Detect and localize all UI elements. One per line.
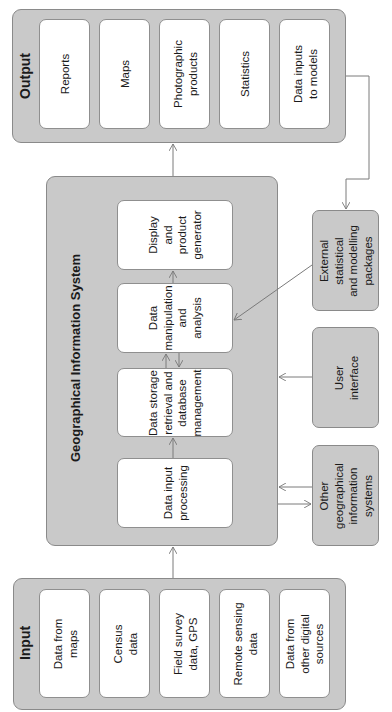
input-remote-sensing-label: Remote sensing data (230, 602, 259, 685)
user-interface-box: User interface (312, 327, 379, 428)
output-statistics-box: Statistics (219, 19, 270, 129)
gis-input-processing-box: Data input processing (117, 458, 233, 528)
user-interface-label: User interface (331, 355, 360, 399)
input-census-label: Census data (110, 624, 139, 663)
output-maps-box: Maps (99, 19, 150, 129)
output-reports-label: Reports (57, 54, 72, 94)
gis-title: Geographical Information System (68, 254, 83, 462)
input-census-box: Census data (99, 589, 150, 698)
gis-storage-label: Data storage retrieval and database mana… (146, 369, 204, 436)
gis-display-label: Display and product generator (146, 210, 204, 259)
output-data-inputs-box: Data inputs to models (279, 19, 330, 129)
output-maps-label: Maps (117, 60, 132, 88)
output-data-inputs-label: Data inputs to models (290, 45, 319, 103)
external-packages-label: External statistical and modelling packa… (317, 225, 375, 297)
output-photographic-label: Photographic products (170, 40, 199, 108)
input-field-survey-label: Field survey data, GPS (170, 613, 199, 675)
other-gis-label: Other geographical information systems (317, 463, 375, 529)
input-remote-sensing-box: Remote sensing data (219, 589, 270, 698)
output-title: Output (17, 53, 33, 99)
gis-display-box: Display and product generator (117, 200, 233, 270)
output-statistics-label: Statistics (237, 51, 252, 97)
gis-storage-box: Data storage retrieval and database mana… (117, 368, 233, 437)
input-title: Input (17, 626, 33, 660)
other-gis-box: Other geographical information systems (312, 445, 379, 546)
gis-manipulation-box: Data manipulation and analysis (117, 283, 233, 353)
gis-input-processing-label: Data input processing (161, 465, 190, 521)
input-field-survey-box: Field survey data, GPS (159, 589, 210, 698)
input-other-digital-box: Data from other digital sources (279, 589, 330, 698)
input-maps-box: Data from maps (39, 589, 90, 698)
input-other-digital-label: Data from other digital sources (283, 614, 327, 673)
output-photographic-box: Photographic products (159, 19, 210, 129)
output-reports-box: Reports (39, 19, 90, 129)
arrow-output-to-external (346, 76, 369, 209)
external-packages-box: External statistical and modelling packa… (312, 210, 379, 311)
gis-manipulation-label: Data manipulation and analysis (146, 285, 204, 350)
input-maps-label: Data from maps (50, 618, 79, 669)
